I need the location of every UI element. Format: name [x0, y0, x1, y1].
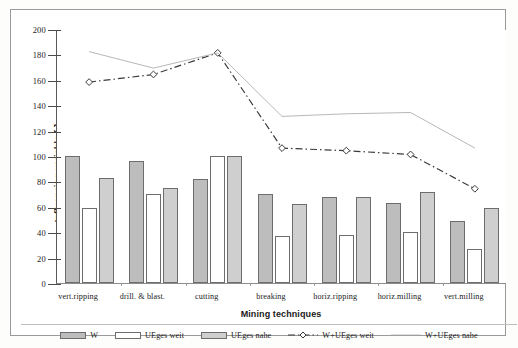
x-label-vert-milling: vert.milling — [444, 292, 484, 301]
marker-w-ueges-weit-5 — [407, 151, 414, 158]
legend-item-w[interactable]: W — [60, 331, 98, 340]
x-axis-title: Mining techniques — [56, 309, 506, 319]
y-tick-label: 160 — [33, 77, 46, 86]
y-tick-label: 20 — [37, 254, 46, 263]
y-tick — [48, 81, 57, 82]
legend-item-w-ueges-weit[interactable]: W+UEges weit — [288, 331, 374, 340]
plot-area: 020406080100120140160180200 — [56, 30, 506, 284]
legend-line-icon — [391, 331, 421, 339]
marker-w-ueges-weit-4 — [343, 147, 350, 154]
y-tick-label: 120 — [33, 127, 46, 136]
y-tick-label: 140 — [33, 102, 46, 111]
legend-label: W+UEges weit — [322, 331, 374, 340]
line-series-layer — [57, 30, 507, 284]
legend-swatch-icon — [60, 332, 86, 339]
marker-w-ueges-weit-0 — [86, 79, 93, 86]
y-tick-label: 40 — [37, 229, 46, 238]
legend-item-w-ueges-nahe[interactable]: W+UEges nahe — [391, 331, 478, 340]
x-label-breaking: breaking — [256, 292, 285, 301]
y-tick-label: 100 — [33, 153, 46, 162]
y-tick — [48, 106, 57, 107]
legend-swatch-icon — [201, 332, 227, 339]
line-w-ueges-nahe — [89, 52, 475, 149]
figure-frame: Influencing variable [-] 020406080100120… — [10, 9, 506, 336]
legend-label: W+UEges nahe — [425, 331, 478, 340]
x-label-horiz-milling: horiz.milling — [378, 292, 422, 301]
legend-item-ueges-nahe[interactable]: UEges nahe — [201, 331, 271, 340]
y-tick — [48, 284, 57, 285]
y-tick — [48, 55, 57, 56]
marker-w-ueges-weit-3 — [279, 145, 286, 152]
line-w-ueges-weit — [89, 53, 475, 189]
legend-line-icon — [288, 331, 318, 339]
legend-label: UEges weit — [145, 331, 184, 340]
legend-label: W — [90, 331, 98, 340]
y-tick — [48, 233, 57, 234]
y-tick-inner — [57, 284, 61, 285]
y-tick — [48, 132, 57, 133]
y-tick — [48, 157, 57, 158]
x-label-vert-ripping: vert.ripping — [58, 292, 98, 301]
plot-inner: 020406080100120140160180200 — [57, 30, 506, 283]
legend-item-ueges-weit[interactable]: UEges weit — [115, 331, 184, 340]
y-tick-label: 80 — [37, 178, 46, 187]
x-label-cutting: cutting — [195, 292, 218, 301]
y-tick-label: 180 — [33, 51, 46, 60]
y-tick-label: 0 — [42, 280, 46, 289]
y-tick — [48, 259, 57, 260]
y-tick — [48, 182, 57, 183]
y-tick — [48, 30, 57, 31]
y-tick — [48, 208, 57, 209]
chart-figure: Influencing variable [-] 020406080100120… — [0, 0, 518, 348]
chart-legend: WUEges weitUEges naheW+UEges weitW+UEges… — [21, 324, 517, 344]
legend-swatch-icon — [115, 332, 141, 339]
marker-w-ueges-weit-1 — [150, 71, 157, 78]
legend-label: UEges nahe — [231, 331, 271, 340]
marker-w-ueges-weit-6 — [471, 185, 478, 192]
y-tick-label: 60 — [37, 204, 46, 213]
x-label-horiz-ripping: horiz.ripping — [313, 292, 357, 301]
x-label-drill-blast-: drill. & blast. — [120, 292, 165, 301]
y-tick-label: 200 — [33, 26, 46, 35]
